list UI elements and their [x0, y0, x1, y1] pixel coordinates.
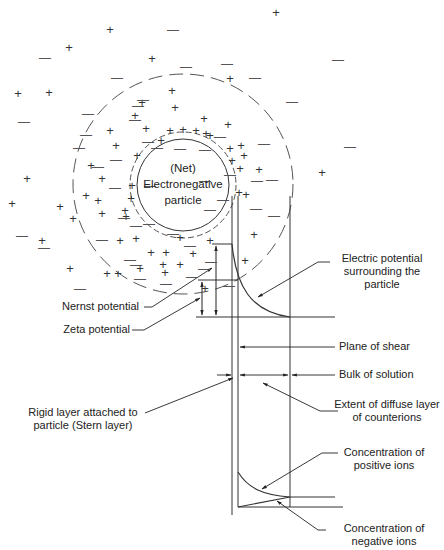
negative-ion-symbol: — [186, 271, 198, 284]
positive-ion-symbol: + [162, 246, 170, 259]
particle-label: (Net) Electronegative particle [133, 160, 233, 208]
positive-ion-symbol: + [206, 129, 214, 142]
negative-ions-label: Concentration of negative ions [334, 522, 434, 548]
positive-ions-label: Concentration of positive ions [334, 446, 434, 472]
particle-label-line3: particle [133, 192, 233, 208]
positive-ion-symbol: + [82, 189, 90, 202]
negative-ion-symbol: — [167, 24, 179, 37]
positive-ion-symbol: + [103, 267, 111, 280]
negative-ion-symbol: — [96, 234, 108, 247]
positive-ion-symbol: + [142, 122, 150, 135]
positive-ion-symbol: + [318, 166, 326, 179]
positive-ion-symbol: + [176, 258, 184, 271]
negative-ion-symbol: — [151, 142, 163, 155]
particle-label-line1: (Net) [133, 160, 233, 176]
positive-ion-symbol: + [56, 200, 64, 213]
positive-ion-symbol: + [98, 207, 106, 220]
positive-ion-symbol: + [236, 162, 244, 175]
electric-potential-line3: particle [322, 278, 442, 291]
negative-ion-symbol: — [73, 142, 85, 155]
negative-ion-symbol: — [109, 182, 121, 195]
negative-ion-symbol: — [132, 100, 144, 113]
rigid-layer-label: Rigid layer attached to particle (Stern … [20, 406, 146, 432]
electric-potential-line2: surrounding the [322, 265, 442, 278]
negative-ion-symbol: — [39, 52, 51, 65]
positive-ion-symbol: + [23, 172, 31, 185]
negative-ion-symbol: — [268, 210, 280, 223]
electric-potential-line1: Electric potential [322, 252, 442, 265]
negative-ion-symbol: — [82, 108, 94, 121]
positive-ion-symbol: + [14, 87, 22, 100]
plane-of-shear-label: Plane of shear [339, 340, 410, 353]
diffuse-leader [263, 383, 338, 411]
negative-ion-symbol: — [167, 228, 179, 241]
negative-ion-symbol: — [16, 230, 28, 243]
rigid-layer-line2: particle (Stern layer) [20, 419, 146, 432]
positive-ion-symbol: + [206, 234, 214, 247]
negative-ion-symbol: — [332, 54, 344, 67]
positive-ion-symbol: + [116, 234, 124, 247]
positive-ion-symbol: + [69, 212, 77, 225]
positive-ion-symbol: + [179, 123, 187, 136]
negative-ion-symbol: — [258, 138, 270, 151]
negative-ion-symbol: — [130, 220, 142, 233]
negative-ion-symbol: — [110, 154, 122, 167]
positive-ion-symbol: + [147, 246, 155, 259]
positive-ion-symbol: + [171, 101, 179, 114]
diffuse-layer-line2: of counterions [330, 411, 444, 424]
zeta-leader [132, 298, 200, 330]
negative-ion-symbol: — [214, 131, 226, 144]
stern-leader [145, 378, 233, 413]
negative-ion-symbol: — [92, 161, 104, 174]
positive-ion-symbol: + [114, 267, 122, 280]
positive-ion-symbol: + [272, 6, 280, 19]
negative-ion-symbol: — [118, 212, 130, 225]
negative-ion-symbol: — [160, 278, 172, 291]
bulk-of-solution-label: Bulk of solution [339, 368, 414, 381]
diffuse-layer-line1: Extent of diffuse layer [330, 398, 444, 411]
diffuse-layer-label: Extent of diffuse layer of counterions [330, 398, 444, 424]
positive-ions-line2: positive ions [334, 459, 434, 472]
negative-ions-line2: negative ions [334, 535, 434, 548]
negative-ion-symbol: — [174, 143, 186, 156]
negative-ion-symbol: — [251, 175, 263, 188]
positive-ion-symbol: + [168, 84, 176, 97]
negative-ion-symbol: — [184, 240, 196, 253]
positive-ion-symbol: + [65, 41, 73, 54]
negative-ions-leader [277, 501, 326, 530]
negative-ion-symbol: — [249, 72, 261, 85]
negative-ion-symbol: — [74, 283, 86, 296]
rigid-layer-line1: Rigid layer attached to [20, 406, 146, 419]
negative-ion-symbol: — [223, 280, 235, 293]
negative-ion-symbol: — [180, 61, 192, 74]
positive-ion-symbol: + [132, 232, 140, 245]
negative-ion-symbol: — [221, 58, 233, 71]
nernst-potential-label: Nernst potential [62, 300, 139, 313]
electric-potential-label: Electric potential surrounding the parti… [322, 252, 442, 291]
zeta-potential-label: Zeta potential [63, 323, 130, 336]
positive-ion-symbol: + [166, 124, 174, 137]
positive-ion-symbol: + [192, 124, 200, 137]
particle-label-line2: Electronegative [133, 176, 233, 192]
negative-ion-symbol: — [134, 273, 146, 286]
positive-ion-symbol: + [106, 23, 114, 36]
electric-potential-leader [258, 262, 330, 297]
positive-ion-symbol: + [240, 149, 248, 162]
positive-ion-symbol: + [250, 228, 258, 241]
positive-ion-symbol: + [200, 112, 208, 125]
negative-ion-symbol: — [250, 203, 262, 216]
positive-ion-curve [238, 472, 290, 497]
negative-ion-symbol: — [205, 256, 217, 269]
positive-ion-symbol: + [66, 262, 74, 275]
negative-ion-symbol: — [130, 259, 142, 272]
negative-ion-symbol: — [129, 114, 141, 127]
positive-ion-symbol: + [45, 86, 53, 99]
negative-ion-symbol: — [38, 242, 50, 255]
positive-ions-line1: Concentration of [334, 446, 434, 459]
positive-ion-symbol: + [106, 124, 114, 137]
negative-ions-line1: Concentration of [334, 522, 434, 535]
negative-ion-symbol: — [111, 72, 123, 85]
negative-ion-symbol: — [286, 96, 298, 109]
positive-ion-symbol: + [242, 188, 250, 201]
positive-ion-symbol: + [8, 197, 16, 210]
